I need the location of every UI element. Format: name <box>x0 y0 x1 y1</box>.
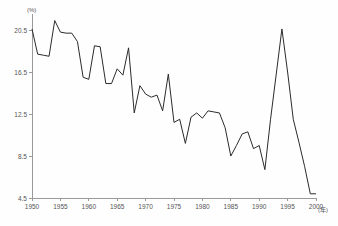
chart-axes <box>32 14 316 198</box>
y-tick-label: 20.5 <box>14 27 27 34</box>
y-tick-label: 12.5 <box>14 111 27 118</box>
x-tick-label: 1990 <box>252 203 267 210</box>
x-tick-label: 1980 <box>195 203 210 210</box>
x-tick-label: 1950 <box>25 203 40 210</box>
x-tick-label: 1975 <box>167 203 182 210</box>
y-tick-label: 4.5 <box>18 195 27 202</box>
x-tick-label: 1985 <box>224 203 239 210</box>
y-axis-unit-label: (%) <box>27 7 36 13</box>
x-tick-label: 1955 <box>53 203 68 210</box>
line-chart-figure: 4.58.512.516.520.5 195019551960196519701… <box>0 0 338 226</box>
x-tick-label: 1970 <box>138 203 153 210</box>
y-tick-label: 16.5 <box>14 69 27 76</box>
y-tick-label: 8.5 <box>18 153 27 160</box>
x-tick-labels: 1950195519601965197019751980198519901995… <box>25 203 324 210</box>
data-series-line <box>32 21 316 194</box>
chart-canvas: 4.58.512.516.520.5 195019551960196519701… <box>0 0 338 226</box>
x-axis-unit-label: (年) <box>318 206 328 214</box>
x-tick-label: 1960 <box>82 203 97 210</box>
x-tick-label: 1965 <box>110 203 125 210</box>
x-tick-label: 1995 <box>280 203 295 210</box>
y-tick-labels: 4.58.512.516.520.5 <box>14 27 27 202</box>
